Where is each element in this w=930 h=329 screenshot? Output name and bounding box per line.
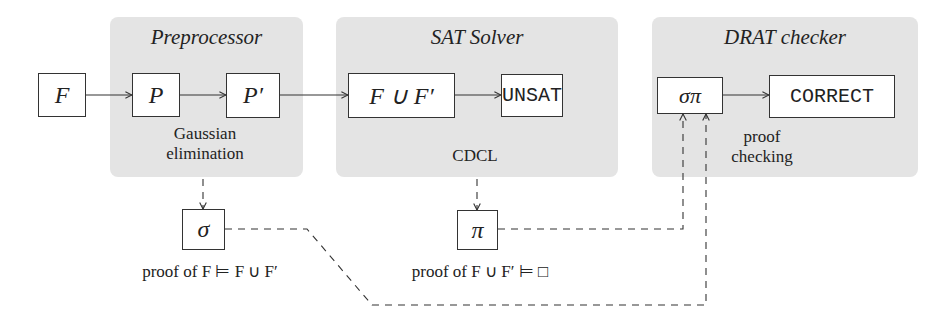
caption-line: elimination: [150, 144, 260, 164]
caption-line: Gaussian: [150, 124, 260, 144]
node-P: P: [132, 73, 180, 117]
node-F: F: [38, 73, 86, 117]
sat-solver-caption: CDCL: [420, 146, 530, 166]
node-sigma: σ: [182, 209, 225, 250]
node-P-prime: P′: [226, 73, 280, 118]
pi-caption: proof of F ∪ F′ ⊨ □: [380, 262, 580, 282]
drat-checker-caption: proof checking: [712, 127, 812, 167]
sigma-caption: proof of F ⊨ F ∪ F′: [110, 262, 310, 282]
node-sigma-pi: σπ: [657, 77, 723, 114]
node-F-union-F-prime: F ∪ F′: [348, 73, 455, 118]
caption-line: CDCL: [420, 146, 530, 166]
node-unsat: UNSAT: [501, 74, 563, 117]
caption-line: checking: [712, 147, 812, 167]
caption-line: proof: [712, 127, 812, 147]
node-pi: π: [457, 210, 498, 250]
node-correct: CORRECT: [769, 75, 895, 118]
preprocessor-caption: Gaussian elimination: [150, 124, 260, 164]
